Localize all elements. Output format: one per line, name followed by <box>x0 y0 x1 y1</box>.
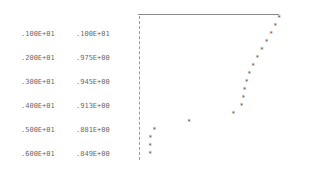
x-value: .600E+01 <box>21 150 55 158</box>
x-value: .100E+01 <box>21 30 55 38</box>
data-point-marker: * <box>147 151 153 158</box>
x-value: .400E+01 <box>21 102 55 110</box>
plot-top-border <box>138 14 279 15</box>
data-point-marker: * <box>246 71 252 78</box>
y-value: .945E+00 <box>76 78 110 86</box>
x-value: .200E+01 <box>21 54 55 62</box>
data-point-marker: * <box>230 111 236 118</box>
data-point-marker: * <box>272 23 278 30</box>
x-values-column: .100E+01 .200E+01 .300E+01 .400E+01 .500… <box>21 14 55 173</box>
y-value: .100E+01 <box>76 30 110 38</box>
y-value: .849E+00 <box>76 150 110 158</box>
data-point-marker: * <box>268 31 274 38</box>
y-value: .913E+00 <box>76 102 110 110</box>
data-point-marker: * <box>239 103 245 110</box>
data-point-marker: * <box>250 63 256 70</box>
data-point-marker: * <box>186 119 192 126</box>
x-value: .500E+01 <box>21 126 55 134</box>
plot-left-axis <box>139 16 140 160</box>
data-point-marker: * <box>242 87 248 94</box>
data-point-marker: * <box>254 55 260 62</box>
y-values-column: .100E+01 .975E+00 .945E+00 .913E+00 .881… <box>76 14 110 173</box>
data-point-marker: * <box>147 135 153 142</box>
y-value: .975E+00 <box>76 54 110 62</box>
data-point-marker: * <box>147 143 153 150</box>
x-value: .300E+01 <box>21 78 55 86</box>
data-point-marker: * <box>244 79 250 86</box>
y-value: .881E+00 <box>76 126 110 134</box>
data-point-marker: * <box>264 39 270 46</box>
data-point-marker: * <box>240 95 246 102</box>
data-point-marker: * <box>276 15 282 22</box>
data-point-marker: * <box>259 47 265 54</box>
data-point-marker: * <box>151 127 157 134</box>
